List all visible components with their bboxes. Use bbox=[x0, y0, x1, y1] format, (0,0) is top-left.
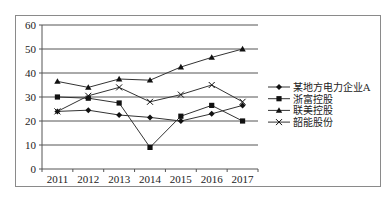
y-tick-label: 50 bbox=[25, 43, 37, 55]
legend-label: 联美控股 bbox=[293, 104, 333, 116]
legend-item: 联美控股 bbox=[268, 104, 333, 116]
legend-label: 浙富控股 bbox=[293, 93, 333, 105]
square-marker-icon bbox=[55, 94, 60, 99]
x-tick-label: 2011 bbox=[47, 173, 69, 185]
square-marker-icon bbox=[117, 100, 122, 105]
square-marker-icon bbox=[240, 118, 245, 123]
legend-item: 某地方电力企业A bbox=[268, 81, 371, 93]
y-tick-label: 20 bbox=[25, 115, 37, 127]
x-tick-label: 2016 bbox=[201, 173, 224, 185]
diamond-marker-icon bbox=[85, 107, 91, 113]
y-tick-label: 30 bbox=[25, 91, 37, 103]
square-marker-icon bbox=[276, 96, 281, 101]
line-chart: 0102030405060 20112012201320142015201620… bbox=[0, 0, 392, 200]
x-tick-label: 2015 bbox=[170, 173, 193, 185]
legend: 某地方电力企业A浙富控股联美控股韶能股份 bbox=[268, 81, 371, 128]
diamond-marker-icon bbox=[276, 84, 282, 90]
legend-item: 浙富控股 bbox=[268, 93, 333, 105]
diamond-marker-icon bbox=[147, 114, 153, 120]
y-tick-label: 60 bbox=[25, 19, 37, 31]
x-marker-icon bbox=[209, 82, 215, 88]
triangle-marker-icon bbox=[54, 78, 60, 84]
square-marker-icon bbox=[178, 114, 183, 119]
y-axis: 0102030405060 bbox=[25, 19, 42, 175]
x-tick-label: 2013 bbox=[108, 173, 131, 185]
legend-label: 韶能股份 bbox=[293, 116, 333, 128]
y-tick-label: 0 bbox=[31, 163, 37, 175]
series-square bbox=[55, 94, 245, 150]
square-marker-icon bbox=[147, 145, 152, 150]
legend-item: 韶能股份 bbox=[268, 116, 333, 128]
series-lines bbox=[54, 46, 246, 150]
y-tick-label: 40 bbox=[25, 67, 37, 79]
y-tick-label: 10 bbox=[25, 139, 37, 151]
legend-label: 某地方电力企业A bbox=[293, 81, 371, 93]
x-tick-label: 2014 bbox=[139, 173, 162, 185]
diamond-marker-icon bbox=[209, 111, 215, 117]
x-marker-icon bbox=[116, 84, 122, 90]
x-tick-label: 2017 bbox=[232, 173, 255, 185]
diamond-marker-icon bbox=[116, 112, 122, 118]
x-tick-label: 2012 bbox=[77, 173, 99, 185]
series-line bbox=[57, 97, 242, 147]
series-triangle bbox=[54, 46, 246, 90]
x-axis: 2011201220132014201520162017 bbox=[42, 169, 258, 185]
square-marker-icon bbox=[209, 103, 214, 108]
